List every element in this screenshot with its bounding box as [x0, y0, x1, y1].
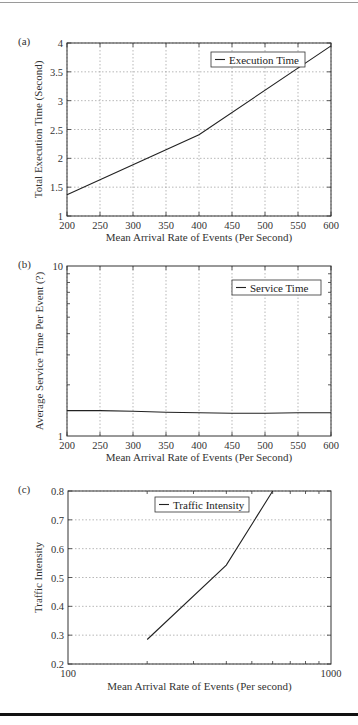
x-tick-label: 350 [158, 440, 174, 451]
y-axis-label: Average Service Time Per Event (?) [33, 272, 46, 431]
x-axis-label: Mean Arrival Rate of Events (Per second) [107, 680, 292, 693]
panel-label: (a) [18, 35, 31, 48]
x-tick-label: 300 [125, 220, 141, 231]
y-tick-label: 2.5 [50, 125, 63, 136]
legend: Execution Time [211, 52, 305, 67]
y-tick-label: 0.2 [51, 659, 64, 670]
x-tick-label: 500 [257, 220, 273, 231]
y-tick-label: 1 [58, 431, 63, 442]
x-tick-label: 400 [191, 440, 207, 451]
legend: Service Time [232, 280, 321, 295]
x-tick-label: 250 [92, 440, 108, 451]
y-axis-label: Total Execution Time (Second) [32, 60, 45, 198]
y-tick-label: 0.3 [51, 630, 64, 641]
legend: Traffic Intensity [155, 497, 249, 512]
x-tick-label: 350 [158, 220, 174, 231]
x-axis-label: Mean Arrival Rate of Events (Per Second) [106, 231, 293, 244]
y-tick-label: 4 [58, 38, 64, 49]
series-line-c [147, 491, 273, 640]
x-tick-label: 550 [290, 440, 306, 451]
page-bottom-rule [0, 713, 358, 716]
legend-entry: Execution Time [229, 54, 299, 66]
x-tick-label: 500 [257, 440, 273, 451]
legend-entry: Service Time [250, 282, 308, 294]
x-tick-label: 400 [191, 220, 207, 231]
y-tick-label: 1 [58, 211, 63, 222]
x-tick-label: 250 [92, 220, 108, 231]
legend-entry: Traffic Intensity [173, 499, 245, 511]
x-tick-label: 450 [224, 220, 240, 231]
y-tick-label: 0.6 [51, 544, 64, 555]
y-tick-label: 0.4 [51, 601, 65, 612]
y-tick-label: 10 [53, 261, 64, 272]
x-tick-label: 300 [125, 440, 141, 451]
y-tick-label: 1.5 [50, 182, 63, 193]
figure-canvas: (a)20025030035040045050055060011.522.533… [0, 0, 358, 725]
chart-panel-c: (c)10010000.20.30.40.50.60.70.8Mean Arri… [18, 483, 342, 693]
x-axis-label: Mean Arrival Rate of Events (Per Second) [106, 451, 293, 464]
x-tick-label: 450 [224, 440, 240, 451]
y-tick-label: 2 [58, 153, 63, 164]
panel-label: (b) [18, 258, 31, 271]
panel-label: (c) [18, 483, 31, 496]
gridlines [68, 491, 331, 664]
x-tick-label: 1000 [321, 668, 342, 679]
x-tick-label: 550 [290, 220, 306, 231]
gridlines [67, 43, 331, 216]
y-axis-label: Traffic Intensity [32, 541, 44, 613]
chart-panel-b: (b)200250300350400450500550600110Mean Ar… [18, 258, 339, 464]
chart-panel-a: (a)20025030035040045050055060011.522.533… [18, 35, 339, 244]
series-line-b [67, 411, 331, 414]
y-tick-label: 3 [58, 96, 63, 107]
y-tick-label: 3.5 [50, 67, 63, 78]
y-tick-label: 0.7 [51, 515, 64, 526]
x-tick-label: 600 [323, 440, 339, 451]
y-tick-label: 0.5 [51, 573, 64, 584]
x-tick-label: 600 [323, 220, 339, 231]
y-tick-label: 0.8 [51, 486, 64, 497]
